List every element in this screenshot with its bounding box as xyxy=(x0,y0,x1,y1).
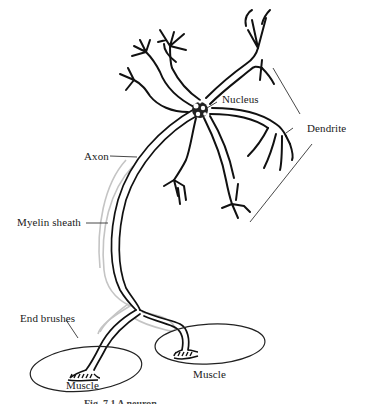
dendrite-bracket-upper xyxy=(273,68,300,114)
label-muscle-right: Muscle xyxy=(193,368,226,380)
axon-leader xyxy=(110,156,137,157)
label-end-brushes: End brushes xyxy=(20,312,75,324)
end-brush-right xyxy=(174,350,198,359)
muscle-right-outline xyxy=(154,321,266,367)
nucleus-shape xyxy=(192,100,208,118)
neuron-diagram: Nucleus Dendrite Axon Myelin sheath End … xyxy=(0,0,366,406)
dendrite-leader-short xyxy=(286,128,293,133)
label-myelin-sheath: Myelin sheath xyxy=(17,216,81,228)
label-dendrite: Dendrite xyxy=(307,122,346,134)
label-axon: Axon xyxy=(84,150,109,162)
label-muscle-left: Muscle xyxy=(66,379,99,391)
leader-lines xyxy=(66,68,312,338)
neuron-illustration xyxy=(0,0,366,406)
label-nucleus: Nucleus xyxy=(222,93,259,105)
